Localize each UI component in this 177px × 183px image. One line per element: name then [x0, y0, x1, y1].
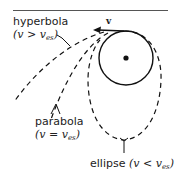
hyperbola-trajectory: [14, 32, 104, 102]
hyperbola-leader-line: [57, 35, 70, 46]
parabola-condition: (v = ves): [35, 128, 80, 142]
velocity-arrowhead-icon: [93, 27, 101, 34]
parabola-trajectory: [50, 33, 108, 122]
hyperbola-label: hyperbola: [13, 15, 68, 28]
orbit-diagram: v hyperbola (v > ves) parabola (v = ves)…: [0, 0, 177, 183]
hyperbola-condition: (v > ves): [13, 28, 58, 42]
velocity-arrow-shaft: [98, 30, 124, 31]
parabola-label: parabola: [35, 115, 84, 128]
velocity-label: v: [105, 16, 112, 26]
ellipse-label: ellipse (v < ves): [90, 157, 174, 171]
center-body: [123, 55, 128, 60]
